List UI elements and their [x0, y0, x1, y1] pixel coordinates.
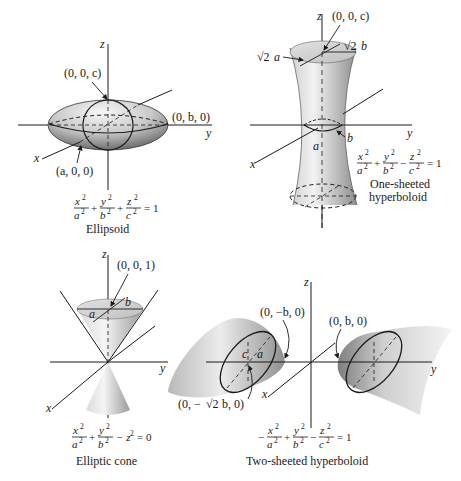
point-0-0-c: (0, 0, c)	[64, 66, 101, 80]
svg-text:x: x	[267, 424, 273, 436]
svg-text:2: 2	[326, 436, 330, 445]
svg-text:= 1: = 1	[144, 202, 158, 214]
trace-a-label: a	[257, 347, 263, 361]
svg-text:x: x	[74, 195, 80, 207]
svg-text:2: 2	[79, 436, 83, 445]
hyperboloid-surface	[290, 48, 357, 205]
svg-text:a: a	[267, 438, 273, 450]
point-0-0-c: (0, 0, c)	[332, 9, 369, 23]
svg-text:−: −	[310, 431, 316, 443]
svg-text:b: b	[98, 438, 104, 450]
one-sheeted-hyperboloid-panel: z y x (0, 0, c) √2 b √2 a a b x2 a2 + y2…	[249, 9, 441, 228]
svg-text:2: 2	[80, 422, 84, 431]
z-axis-label: z	[316, 9, 322, 23]
svg-text:2: 2	[416, 162, 420, 171]
svg-text:x: x	[357, 150, 363, 162]
x-axis-label: x	[45, 401, 52, 415]
svg-text:2: 2	[105, 436, 109, 445]
svg-text:−: −	[258, 431, 264, 443]
svg-text:2: 2	[106, 422, 110, 431]
trace-c-label: c	[242, 347, 248, 361]
one-sheeted-caption-line2: hyperboloid	[369, 190, 427, 204]
svg-text:2: 2	[300, 436, 304, 445]
svg-text:2: 2	[390, 162, 394, 171]
one-sheeted-caption-line1: One-sheeted	[370, 177, 430, 191]
svg-text:2: 2	[107, 207, 111, 216]
svg-text:− z: − z	[116, 431, 131, 443]
svg-text:+: +	[374, 157, 380, 169]
two-sheeted-caption: Two-sheeted hyperboloid	[246, 454, 368, 468]
svg-text:= 0: = 0	[137, 431, 152, 443]
point-0-0-1: (0, 0, 1)	[117, 258, 155, 272]
svg-text:a: a	[274, 50, 280, 64]
one-sheeted-equation: x2 a2 + y2 b2 − z2 c2 = 1	[357, 148, 441, 176]
svg-text:(0, −: (0, −	[178, 397, 201, 411]
svg-text:x: x	[72, 424, 78, 436]
svg-text:a: a	[357, 164, 363, 176]
svg-text:z: z	[409, 150, 415, 162]
svg-text:+: +	[91, 202, 97, 214]
svg-text:2: 2	[417, 148, 421, 157]
waist-b-label: b	[347, 131, 353, 145]
x-axis-label: x	[261, 387, 268, 401]
svg-text:c: c	[319, 438, 324, 450]
svg-text:2: 2	[327, 422, 331, 431]
point-0-neg-sqrt2b-0: (0, − √2 b, 0)	[178, 397, 244, 411]
svg-text:√2: √2	[344, 39, 357, 53]
point-0-b-0: (0, b, 0)	[172, 110, 210, 124]
svg-text:c: c	[409, 164, 414, 176]
point-0-neg-b-0: (0, −b, 0)	[260, 305, 305, 319]
point-a-0-0: (a, 0, 0)	[56, 164, 93, 178]
z-axis-label: z	[101, 247, 107, 261]
svg-text:b: b	[100, 209, 106, 221]
waist-a-label: a	[313, 139, 319, 153]
svg-text:= 1: = 1	[427, 157, 441, 169]
svg-text:+: +	[89, 431, 95, 443]
ellipsoid-panel: z y x (0, 0, c) (0, b, 0) (a, 0, 0) x2 a…	[18, 37, 212, 236]
elliptic-cone-panel: z y x (0, 0, 1) a b x2 a2 + y2 b2 − z2 =…	[45, 247, 168, 468]
sqrt2-a-label: √2 a	[257, 50, 280, 64]
svg-text:2: 2	[364, 162, 368, 171]
svg-text:−: −	[400, 157, 406, 169]
cone-equation: x2 a2 + y2 b2 − z2 = 0	[72, 422, 152, 450]
svg-text:√2: √2	[206, 397, 219, 411]
svg-text:y: y	[98, 424, 104, 436]
y-axis-label: y	[159, 361, 166, 375]
y-axis-label: y	[205, 126, 212, 140]
ellipsoid-equation: x2 a2 + y2 b2 + z2 c2 = 1	[74, 193, 158, 221]
svg-text:b, 0): b, 0)	[222, 397, 244, 411]
svg-text:√2: √2	[257, 50, 270, 64]
svg-text:z: z	[126, 195, 132, 207]
ellipsoid-caption: Ellipsoid	[86, 222, 129, 236]
svg-text:a: a	[74, 209, 80, 221]
svg-text:b: b	[361, 39, 367, 53]
svg-text:+: +	[117, 202, 123, 214]
x-axis-label: x	[33, 151, 40, 165]
svg-text:c: c	[126, 209, 131, 221]
svg-text:2: 2	[82, 193, 86, 202]
x-axis-label: x	[249, 157, 256, 171]
svg-text:y: y	[100, 195, 106, 207]
svg-text:+: +	[284, 431, 290, 443]
svg-text:2: 2	[275, 422, 279, 431]
svg-text:= 1: = 1	[337, 431, 351, 443]
svg-text:2: 2	[365, 148, 369, 157]
lower-nappe	[86, 362, 130, 415]
sqrt2-b-label: √2 b	[344, 39, 367, 53]
svg-text:2: 2	[134, 193, 138, 202]
x-axis	[42, 142, 80, 159]
z-axis-label: z	[99, 37, 105, 51]
arrow-icon	[283, 320, 289, 358]
cone-a-label: a	[89, 307, 95, 321]
point-0-b-0: (0, b, 0)	[329, 314, 367, 328]
svg-text:b: b	[383, 164, 389, 176]
cone-caption: Elliptic cone	[76, 454, 137, 468]
svg-text:2: 2	[301, 422, 305, 431]
arrow-icon	[77, 146, 81, 163]
y-axis-label: y	[430, 362, 437, 376]
svg-text:z: z	[319, 424, 325, 436]
svg-text:a: a	[72, 438, 78, 450]
svg-text:y: y	[383, 150, 389, 162]
arrow-icon	[336, 329, 341, 358]
quadric-surfaces-figure: z y x (0, 0, c) (0, b, 0) (a, 0, 0) x2 a…	[0, 0, 461, 481]
